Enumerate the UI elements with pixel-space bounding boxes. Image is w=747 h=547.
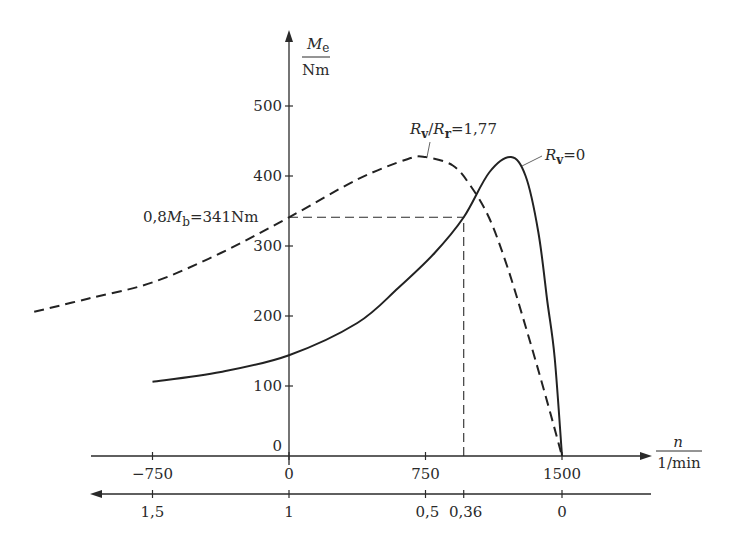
y-tick-label: 200 bbox=[253, 307, 282, 325]
y-label-unit: Nm bbox=[302, 61, 329, 79]
slip-tick-label: 0,36 bbox=[449, 503, 482, 521]
y-ticks: 0100200300400500 bbox=[253, 97, 293, 455]
series-line-dashed bbox=[34, 156, 562, 456]
y-tick-label: 500 bbox=[253, 97, 282, 115]
y-tick-label: 300 bbox=[253, 237, 282, 255]
series bbox=[34, 156, 562, 456]
leader-line-dashed bbox=[427, 142, 430, 157]
x-axis-arrow-icon bbox=[640, 452, 652, 460]
annotations: 0,8Mb=341Nm Rv/Rr=1,77 Rv=0 bbox=[143, 120, 585, 229]
slip-tick-label: 1,5 bbox=[141, 503, 165, 521]
x-tick-label: −750 bbox=[132, 465, 173, 483]
x-tick-label: 0 bbox=[284, 465, 294, 483]
slip-tick-label: 1 bbox=[284, 503, 294, 521]
annotation-breakdown-torque: 0,8Mb=341Nm bbox=[143, 208, 258, 229]
x-label-unit: 1/min bbox=[657, 454, 701, 472]
y-label-m: Me bbox=[306, 35, 329, 55]
y-axis-arrow-icon bbox=[285, 30, 293, 42]
x-label-n: n bbox=[673, 433, 683, 451]
y-tick-label: 400 bbox=[253, 167, 282, 185]
slip-tick-label: 0,5 bbox=[416, 503, 440, 521]
series-line-solid bbox=[153, 157, 563, 456]
y-tick-label: 0 bbox=[272, 437, 282, 455]
slip-axis-arrow-icon bbox=[90, 490, 102, 498]
x-tick-label: 1500 bbox=[543, 465, 581, 483]
y-tick-label: 100 bbox=[253, 377, 282, 395]
axes bbox=[90, 30, 652, 498]
annotation-no-resistance: Rv=0 bbox=[544, 146, 585, 167]
torque-speed-chart: 0100200300400500 −75007501500 1,510,50,3… bbox=[0, 0, 747, 547]
annotation-series-resistance: Rv/Rr=1,77 bbox=[409, 120, 497, 141]
slip-tick-label: 0 bbox=[557, 503, 567, 521]
reference-lines bbox=[289, 217, 464, 456]
leader-line-solid bbox=[522, 156, 542, 166]
x-tick-label: 750 bbox=[411, 465, 440, 483]
axis-labels: Me Nm n 1/min bbox=[302, 35, 702, 472]
